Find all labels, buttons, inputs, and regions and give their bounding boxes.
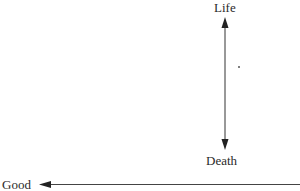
arrowhead-down-icon [222, 139, 229, 150]
label-good: Good [2, 178, 31, 191]
label-life: Life [214, 1, 236, 15]
horizontal-arrow-good [39, 181, 300, 188]
dot-mark [238, 66, 240, 68]
label-death: Death [206, 154, 237, 168]
arrowhead-left-icon [39, 181, 51, 188]
arrowhead-up-icon [222, 17, 229, 28]
axes-svg [0, 0, 300, 191]
vertical-arrow-life-death [222, 17, 229, 150]
